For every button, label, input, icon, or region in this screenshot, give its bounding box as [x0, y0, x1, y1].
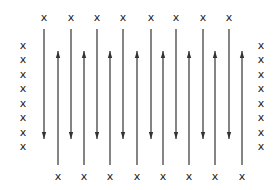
- arrow-down-icon: [42, 29, 46, 139]
- x-marker: x: [20, 39, 27, 52]
- bottom-marker-row: xxxxxxxx: [55, 170, 246, 183]
- x-marker: x: [20, 68, 27, 81]
- arrow-up-icon: [82, 51, 86, 165]
- top-marker-row: xxxxxxxx: [41, 11, 233, 24]
- x-marker: x: [200, 11, 207, 24]
- arrow-down-icon: [149, 29, 153, 139]
- arrow-up-icon: [56, 51, 60, 165]
- left-marker-column: xxxxxxxx: [20, 39, 27, 153]
- x-marker: x: [20, 97, 27, 110]
- x-marker: x: [258, 68, 265, 81]
- arrow-down-icon: [95, 29, 99, 139]
- x-marker: x: [134, 170, 141, 183]
- arrow-down-icon: [201, 29, 205, 139]
- arrow-up-icon: [240, 51, 244, 165]
- x-marker: x: [20, 111, 27, 124]
- x-marker: x: [258, 97, 265, 110]
- x-marker: x: [258, 126, 265, 139]
- x-marker: x: [258, 39, 265, 52]
- arrow-down-icon: [227, 29, 231, 139]
- x-marker: x: [41, 11, 48, 24]
- x-marker: x: [20, 126, 27, 139]
- arrow-up-icon: [108, 51, 112, 165]
- arrow-up-icon: [213, 51, 217, 165]
- x-marker: x: [258, 140, 265, 153]
- x-marker: x: [55, 170, 62, 183]
- right-marker-column: xxxxxxxx: [258, 39, 265, 153]
- x-marker: x: [107, 170, 114, 183]
- arrow-up-icon: [161, 51, 165, 165]
- arrow-down-icon: [69, 29, 73, 139]
- x-marker: x: [173, 11, 180, 24]
- x-marker: x: [160, 170, 167, 183]
- arrow-diagram: xxxxxxxx xxxxxxxx xxxxxxxx xxxxxxxx: [0, 0, 279, 190]
- arrow-up-icon: [135, 51, 139, 165]
- x-marker: x: [81, 170, 88, 183]
- arrow-up-icon: [187, 51, 191, 165]
- arrow-down-icon: [174, 29, 178, 139]
- x-marker: x: [258, 82, 265, 95]
- x-marker: x: [226, 11, 233, 24]
- x-marker: x: [20, 53, 27, 66]
- x-marker: x: [120, 11, 127, 24]
- x-marker: x: [212, 170, 219, 183]
- x-marker: x: [148, 11, 155, 24]
- x-marker: x: [258, 53, 265, 66]
- x-marker: x: [258, 111, 265, 124]
- x-marker: x: [20, 140, 27, 153]
- x-marker: x: [68, 11, 75, 24]
- x-marker: x: [94, 11, 101, 24]
- x-marker: x: [186, 170, 193, 183]
- arrow-down-icon: [121, 29, 125, 139]
- up-arrow-group: [56, 51, 244, 165]
- x-marker: x: [239, 170, 246, 183]
- x-marker: x: [20, 82, 27, 95]
